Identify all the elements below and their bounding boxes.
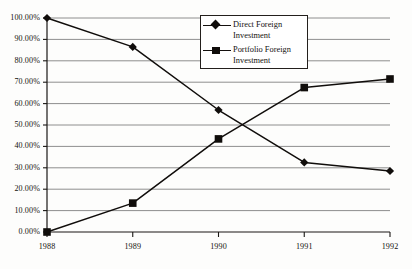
chart-container: 0.00%10.00%20.00%30.00%40.00%50.00%60.00… [0, 0, 412, 269]
y-tick-label: 30.00% [14, 164, 40, 172]
x-tick-label: 1989 [124, 243, 141, 251]
square-marker-icon [201, 45, 233, 56]
legend-label-line-2: Investment [233, 56, 270, 65]
data-point-square [129, 199, 137, 207]
legend-item-direct-foreign-investment: Direct ForeignInvestment [201, 19, 307, 43]
x-tick-label: 1991 [296, 243, 313, 251]
x-tick-mark-group [47, 232, 390, 237]
chart-legend: Direct ForeignInvestment Portfolio Forei… [200, 15, 308, 69]
x-tick-label: 1992 [382, 243, 399, 251]
y-tick-label: 80.00% [14, 57, 40, 65]
y-tick-label: 0.00% [19, 228, 40, 236]
legend-item-label: Portfolio ForeignInvestment [233, 44, 291, 67]
y-tick-label: 100.00% [10, 14, 40, 22]
series-line-1 [47, 79, 390, 232]
legend-label-line-2: Investment [233, 31, 270, 40]
y-tick-label: 70.00% [14, 78, 40, 86]
y-tick-label: 50.00% [14, 121, 40, 129]
legend-label-line-1: Portfolio Foreign [233, 45, 291, 54]
x-tick-label: 1988 [39, 243, 56, 251]
data-point-square [386, 75, 394, 83]
y-tick-label: 20.00% [14, 185, 40, 193]
data-point-square [43, 228, 51, 236]
data-point-square [300, 84, 308, 92]
legend-label-line-1: Direct Foreign [233, 20, 282, 29]
data-point-diamond [43, 14, 51, 22]
y-tick-label: 40.00% [14, 142, 40, 150]
diamond-marker-icon [201, 20, 233, 31]
data-point-square [215, 135, 223, 143]
legend-item-label: Direct ForeignInvestment [233, 19, 282, 42]
y-tick-label: 90.00% [14, 35, 40, 43]
x-tick-label: 1990 [210, 243, 227, 251]
legend-item-portfolio-foreign-investment: Portfolio ForeignInvestment [201, 44, 307, 68]
data-point-diamond [300, 158, 308, 166]
y-tick-label: 60.00% [14, 100, 40, 108]
y-tick-label: 10.00% [14, 207, 40, 215]
